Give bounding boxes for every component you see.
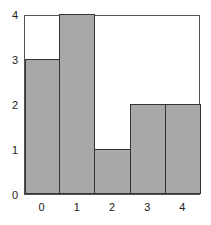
bar-3 [130,104,166,194]
y-tick-label: 3 [0,54,18,66]
y-tick-label: 2 [0,99,18,111]
x-tick-label: 2 [102,201,122,213]
x-tick-label: 4 [172,201,192,213]
bar-1 [59,14,95,194]
x-tick-label: 0 [32,201,52,213]
bar-2 [94,149,130,194]
y-tick-label: 1 [0,144,18,156]
bar-4 [165,104,201,194]
y-tick-label: 4 [0,9,18,21]
y-tick-label: 0 [0,189,18,201]
x-tick-label: 1 [67,201,87,213]
bar-0 [25,59,60,194]
x-tick-label: 3 [137,201,157,213]
plot-area [24,15,200,195]
